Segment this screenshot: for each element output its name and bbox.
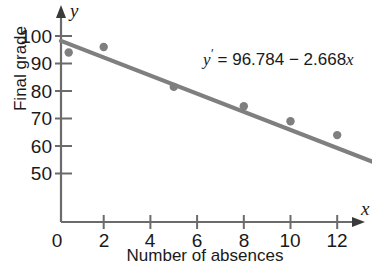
data-point	[100, 43, 108, 51]
y-axis-arrowhead	[56, 5, 66, 18]
y-axis	[56, 5, 66, 222]
x-axis-variable-label: x	[361, 199, 369, 218]
equation-body: = 96.784 − 2.668	[218, 50, 347, 69]
y-tick-label-60: 60	[0, 137, 52, 156]
scatter-plot-figure: 100 90 80 70 60 50 0 2 4 6 8 10 12 Final…	[0, 0, 372, 271]
x-axis	[61, 217, 365, 227]
y-tick-label-50: 50	[0, 164, 52, 183]
data-point	[170, 83, 178, 91]
regression-equation-annotation: y′ = 96.784 − 2.668x	[203, 48, 354, 68]
data-point	[240, 102, 248, 110]
data-point	[286, 117, 294, 125]
y-axis-title: Final grade	[12, 9, 29, 129]
equation-lhs: y	[203, 50, 211, 69]
data-point	[333, 131, 341, 139]
x-axis-title: Number of absences	[60, 247, 350, 264]
y-axis-variable-label: y	[70, 1, 78, 20]
equation-variable: x	[346, 50, 354, 69]
equation-prime-mark: ′	[211, 47, 213, 61]
data-point	[65, 48, 73, 56]
